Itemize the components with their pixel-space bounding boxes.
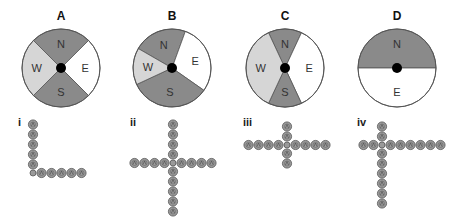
bead-icon (28, 130, 37, 139)
bead-icon (28, 160, 37, 169)
bead-icon (130, 158, 139, 167)
bead-icon (168, 167, 177, 176)
bead-icon (264, 140, 273, 149)
direction-label: N (57, 38, 65, 50)
bead-icon (244, 140, 253, 149)
bead-icon (140, 158, 149, 167)
bead-icon (67, 168, 76, 177)
bead-icon (396, 140, 405, 149)
bead-icon (160, 158, 169, 167)
bead-icon (321, 140, 330, 149)
center-bead (30, 170, 36, 176)
bead-icon (436, 140, 445, 149)
bead-icon (426, 140, 435, 149)
bead-icon (369, 140, 378, 149)
bead-pattern-iii: iii (243, 116, 330, 168)
bead-icon (377, 122, 386, 131)
bead-icon (168, 197, 177, 206)
direction-label: W (143, 61, 154, 73)
bead-icon (57, 168, 66, 177)
panel-label: A (57, 9, 66, 23)
bead-pattern-ii: ii (130, 116, 216, 216)
bead-icon (168, 150, 177, 159)
bead-icon (282, 159, 291, 168)
bead-icon (416, 140, 425, 149)
panel-label: C (281, 9, 290, 23)
compass-bead-diagram: ANESWBNESWCNESWDNEiiiiiiiv (0, 0, 452, 217)
bead-icon (197, 158, 206, 167)
compass-panel-a: ANESW (22, 9, 100, 107)
center-bead (170, 160, 176, 166)
direction-label: N (393, 38, 401, 50)
direction-label: S (166, 86, 173, 98)
bead-icon (254, 140, 263, 149)
bead-icon (377, 159, 386, 168)
bead-icon (168, 177, 177, 186)
compass-panel-d: DNE (358, 9, 436, 107)
hub-dot (167, 63, 177, 73)
direction-label: E (191, 55, 198, 67)
direction-label: W (256, 62, 267, 74)
bead-icon (301, 140, 310, 149)
bead-icon (282, 122, 291, 131)
pattern-label: iv (357, 116, 367, 128)
bead-icon (150, 158, 159, 167)
bead-icon (377, 132, 386, 141)
direction-label: N (281, 38, 289, 50)
bead-icon (28, 140, 37, 149)
direction-label: N (160, 39, 168, 51)
panel-label: D (393, 9, 402, 23)
bead-pattern-i: i (18, 116, 86, 178)
center-bead (284, 142, 290, 148)
bead-icon (406, 140, 415, 149)
bead-pattern-iv: iv (357, 116, 445, 208)
bead-icon (177, 158, 186, 167)
bead-icon (168, 140, 177, 149)
direction-label: S (281, 86, 288, 98)
hub-dot (280, 63, 290, 73)
bead-icon (168, 120, 177, 129)
bead-icon (77, 168, 86, 177)
bead-icon (311, 140, 320, 149)
bead-icon (28, 150, 37, 159)
direction-label: E (393, 86, 400, 98)
pattern-label: iii (243, 116, 252, 128)
bead-icon (168, 207, 177, 216)
direction-label: E (82, 62, 89, 74)
bead-icon (28, 120, 37, 129)
bead-icon (377, 189, 386, 198)
bead-icon (359, 140, 368, 149)
bead-icon (282, 132, 291, 141)
direction-label: E (306, 62, 313, 74)
bead-icon (187, 158, 196, 167)
bead-icon (168, 130, 177, 139)
bead-icon (207, 158, 216, 167)
pattern-label: i (18, 116, 21, 128)
bead-icon (47, 168, 56, 177)
bead-icon (377, 199, 386, 208)
bead-icon (168, 187, 177, 196)
bead-icon (377, 149, 386, 158)
bead-icon (291, 140, 300, 149)
bead-icon (377, 169, 386, 178)
center-bead (379, 142, 385, 148)
bead-icon (274, 140, 283, 149)
pattern-label: ii (130, 116, 136, 128)
bead-icon (37, 168, 46, 177)
compass-panel-c: CNESW (246, 9, 324, 107)
bead-icon (377, 179, 386, 188)
hub-dot (392, 63, 402, 73)
compass-panel-b: BNESW (133, 9, 211, 107)
bead-icon (386, 140, 395, 149)
bead-icon (282, 149, 291, 158)
hub-dot (56, 63, 66, 73)
panel-label: B (168, 9, 177, 23)
direction-label: W (32, 62, 43, 74)
direction-label: S (57, 86, 64, 98)
